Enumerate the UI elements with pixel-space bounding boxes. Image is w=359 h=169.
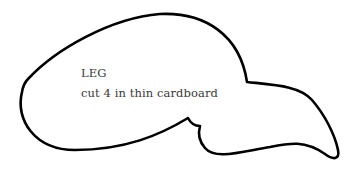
cutting-instruction: cut 4 in thin cardboard <box>81 86 218 100</box>
piece-name-label: LEG <box>81 66 107 80</box>
leg-template-outline <box>0 0 359 169</box>
